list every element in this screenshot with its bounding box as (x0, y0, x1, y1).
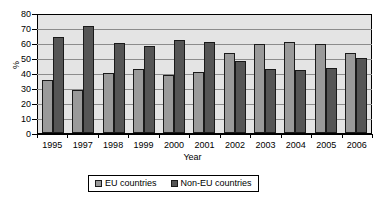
x-axis-tick-mark (98, 134, 99, 138)
non-eu-swatch-icon (171, 180, 178, 187)
bar-group (310, 15, 340, 133)
bar-eu-1998 (103, 73, 114, 133)
bar-eu-2006 (345, 53, 356, 133)
bar-non-eu-2004 (295, 70, 306, 133)
x-axis-tick-mark (281, 134, 282, 138)
legend-label: Non-EU countries (181, 178, 252, 189)
x-axis-tick-label: 1998 (98, 139, 128, 153)
x-axis-tick-label: 2001 (189, 139, 219, 153)
bar-group (99, 15, 129, 133)
x-axis-tick-mark (250, 134, 251, 138)
x-axis-tick-label: 1997 (67, 139, 97, 153)
x-axis-tick-label: 2005 (311, 139, 341, 153)
bar-non-eu-2002 (235, 61, 246, 133)
bar-non-eu-2005 (326, 68, 337, 133)
bar-group (129, 15, 159, 133)
y-axis-tick-labels: 01020304050607080 (0, 14, 37, 134)
bar-group (159, 15, 189, 133)
bar-eu-2003 (254, 44, 265, 133)
plot-area (37, 14, 372, 134)
x-axis-tick-mark (311, 134, 312, 138)
bar-group (189, 15, 219, 133)
y-axis-tick-label: 70 (21, 25, 31, 34)
bar-eu-1995 (42, 80, 53, 133)
y-axis-tick-label: 80 (21, 10, 31, 19)
bar-group (68, 15, 98, 133)
x-axis-tick-label: 2000 (159, 139, 189, 153)
bar-eu-2001 (193, 72, 204, 133)
bar-non-eu-1995 (53, 37, 64, 133)
bar-eu-2000 (163, 75, 174, 133)
y-axis-tick-label: 10 (21, 115, 31, 124)
x-axis-tick-mark (372, 134, 373, 138)
bar-non-eu-1998 (114, 43, 125, 133)
x-axis-tick-label: 2003 (250, 139, 280, 153)
x-axis-title: Year (0, 152, 385, 162)
y-axis-tick-label: 50 (21, 55, 31, 64)
x-axis-tick-label: 2006 (342, 139, 372, 153)
bar-non-eu-2000 (174, 40, 185, 133)
bar-group (38, 15, 68, 133)
x-axis-tick-labels: 1995199719981999200020012002200320042005… (37, 139, 372, 153)
x-axis-tick-mark (220, 134, 221, 138)
x-axis-tick-mark (37, 134, 38, 138)
bar-group (220, 15, 250, 133)
y-axis-tick-label: 30 (21, 85, 31, 94)
y-axis-tick-label: 0 (26, 130, 31, 139)
bar-group (280, 15, 310, 133)
eu-swatch-icon (95, 180, 102, 187)
legend-item: Non-EU countries (171, 178, 252, 189)
bar-chart: % 01020304050607080 19951997199819992000… (0, 0, 385, 205)
x-axis-tick-label: 2002 (220, 139, 250, 153)
y-axis-tick-label: 40 (21, 70, 31, 79)
x-axis-tick-label: 1995 (37, 139, 67, 153)
x-axis-tick-label: 2004 (281, 139, 311, 153)
chart-legend: EU countriesNon-EU countries (88, 175, 259, 192)
legend-item: EU countries (95, 178, 157, 189)
bar-non-eu-2001 (204, 42, 215, 133)
y-axis-tick-label: 60 (21, 40, 31, 49)
x-axis-tick-mark (159, 134, 160, 138)
x-axis-tick-mark (189, 134, 190, 138)
bar-eu-2005 (315, 44, 326, 133)
bar-non-eu-2003 (265, 69, 276, 133)
x-axis-tick-label: 1999 (128, 139, 158, 153)
x-axis-tick-mark (128, 134, 129, 138)
bar-eu-1997 (72, 90, 83, 133)
bar-group (341, 15, 371, 133)
bar-groups (38, 15, 371, 133)
bar-group (250, 15, 280, 133)
x-axis-tick-mark (342, 134, 343, 138)
bar-eu-1999 (133, 69, 144, 133)
bar-non-eu-1999 (144, 46, 155, 133)
y-axis-tick-label: 20 (21, 100, 31, 109)
bar-non-eu-2006 (356, 58, 367, 133)
x-axis-tick-mark (67, 134, 68, 138)
bar-eu-2002 (224, 53, 235, 133)
bar-non-eu-1997 (83, 26, 94, 133)
legend-label: EU countries (105, 178, 157, 189)
bar-eu-2004 (284, 42, 295, 133)
